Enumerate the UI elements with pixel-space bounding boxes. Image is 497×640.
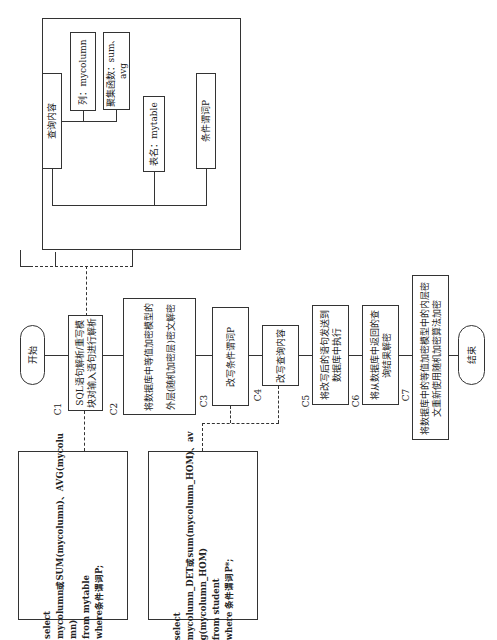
step-id-c7: C7 (401, 389, 411, 402)
connector (55, 252, 56, 266)
connector (52, 169, 53, 205)
connector (230, 406, 231, 423)
node-aggregate: 聚集函数：sum、avg (103, 32, 130, 110)
connector (278, 386, 279, 423)
step-c3-text: 改写条件谓词P (225, 311, 237, 403)
node-table-name: 表名：mytable (143, 96, 165, 172)
node-column-label: 列：mycolumn (77, 34, 89, 109)
node-predicate: 条件谓词P (196, 73, 216, 169)
node-aggregate-label: 聚集函数：sum、avg (105, 34, 129, 108)
step-c7: 将数据库中的等值加密模型中的内层密文重新使用随机加密算法加密 (412, 275, 449, 440)
connector (132, 250, 133, 266)
step-id-c3: C3 (199, 395, 209, 408)
connector (30, 266, 133, 267)
end-label: 结束 (466, 328, 478, 383)
node-table-name-label: 表名：mytable (148, 98, 160, 170)
step-c6-text: 将从数据库中返回的查询结果解密 (369, 308, 393, 402)
connector (83, 111, 84, 121)
connector (52, 205, 207, 206)
sql-rewritten-box: select mycolumn_DET或sum(mycolumn_HOM)、av… (148, 451, 258, 620)
step-c2-text: 将数据库中等值加密模型的外层(随机加密层)密文解密 (138, 302, 182, 412)
step-c1-text: SQL语句解析/重写模块对输入语句进行解析 (74, 317, 98, 409)
sql-rewritten-text: select mycolumn_DET或sum(mycolumn_HOM)、av… (171, 431, 236, 640)
step-id-c4: C4 (253, 389, 263, 402)
start-label: 开始 (27, 328, 39, 383)
connector (86, 266, 87, 316)
node-query-content: 查询内容 (42, 73, 62, 169)
connector (154, 172, 155, 205)
node-predicate-label: 条件谓词P (200, 76, 212, 166)
node-column: 列：mycolumn (70, 32, 96, 111)
step-c3: 改写条件谓词P (212, 307, 249, 406)
step-c5-text: 将改写后的语句发送到数据库中执行 (319, 308, 343, 402)
sql-original-box: select mycolumn或SUM(mycolumn)、AVG(mycolu… (18, 451, 128, 620)
step-c7-text: 将数据库中的等值加密模型中的内层密文重新使用随机加密算法加密 (419, 278, 443, 438)
connector (83, 121, 117, 122)
step-c1: SQL语句解析/重写模块对输入语句进行解析 (68, 315, 103, 411)
connector (202, 423, 279, 424)
sql-original-text: select mycolumn或SUM(mycolumn)、AVG(mycolu… (41, 433, 106, 639)
step-c4-text: 改写查询内容 (275, 328, 287, 384)
step-id-c1: C1 (53, 403, 63, 416)
step-c6: 将从数据库中返回的查询结果解密 (362, 305, 399, 405)
step-c4: 改写查询内容 (262, 325, 299, 386)
start-terminal: 开始 (20, 325, 45, 385)
node-query-content-label: 查询内容 (46, 76, 58, 166)
step-id-c6: C6 (351, 395, 361, 408)
step-id-c5: C5 (301, 395, 311, 408)
step-c5: 将改写后的语句发送到数据库中执行 (312, 305, 349, 405)
connector (116, 110, 117, 121)
end-terminal: 结束 (458, 325, 485, 385)
step-id-c2: C2 (109, 403, 119, 416)
connector (20, 250, 21, 266)
step-c2: 将数据库中等值加密模型的外层(随机加密层)密文解密 (123, 298, 196, 415)
connector (206, 169, 207, 205)
